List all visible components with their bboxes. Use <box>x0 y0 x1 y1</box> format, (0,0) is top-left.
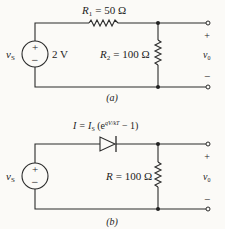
diode-equation: I = IS (eqV/kT − 1) <box>72 120 138 132</box>
r1-label: R1= 50 Ω <box>81 4 126 18</box>
source-minus: − <box>32 53 39 67</box>
output-minus: − <box>204 70 210 82</box>
terminal-icon <box>206 207 210 211</box>
junction-dot-icon <box>156 85 160 89</box>
resistor-r-icon <box>155 162 161 187</box>
wire <box>35 67 206 87</box>
r-label: R= 100 Ω <box>105 170 152 182</box>
source-plus: + <box>32 41 38 53</box>
resistor-r2-icon <box>155 40 161 65</box>
output-minus: − <box>204 193 210 205</box>
terminal-icon <box>206 21 210 25</box>
source-plus: + <box>32 163 38 175</box>
output-plus: + <box>204 30 210 41</box>
terminal-icon <box>206 85 210 89</box>
caption-b: (b) <box>106 216 118 228</box>
source-minus: − <box>32 175 39 189</box>
circuit-figure: + − vS 2 V R1= 50 Ω R2= 100 Ω + v0 − (a)… <box>0 0 225 229</box>
source-label: vS <box>6 48 15 62</box>
caption-a: (a) <box>106 92 118 104</box>
wire <box>35 189 206 209</box>
wire <box>35 23 89 41</box>
circuit-b: + − vS I = IS (eqV/kT − 1) R= 100 Ω + v0… <box>6 120 210 228</box>
output-label: v0 <box>203 171 210 183</box>
diode-icon <box>100 137 115 151</box>
junction-dot-icon <box>156 142 160 146</box>
circuit-a: + − vS 2 V R1= 50 Ω R2= 100 Ω + v0 − (a) <box>6 4 210 104</box>
junction-dot-icon <box>156 207 160 211</box>
source-value: 2 V <box>52 48 68 60</box>
output-label: v0 <box>203 49 210 61</box>
source-label: vS <box>6 170 15 184</box>
output-plus: + <box>204 151 210 162</box>
resistor-r1-icon <box>89 20 118 26</box>
r2-label: R2= 100 Ω <box>99 48 150 62</box>
wire <box>35 144 100 163</box>
terminal-icon <box>206 142 210 146</box>
junction-dot-icon <box>156 21 160 25</box>
